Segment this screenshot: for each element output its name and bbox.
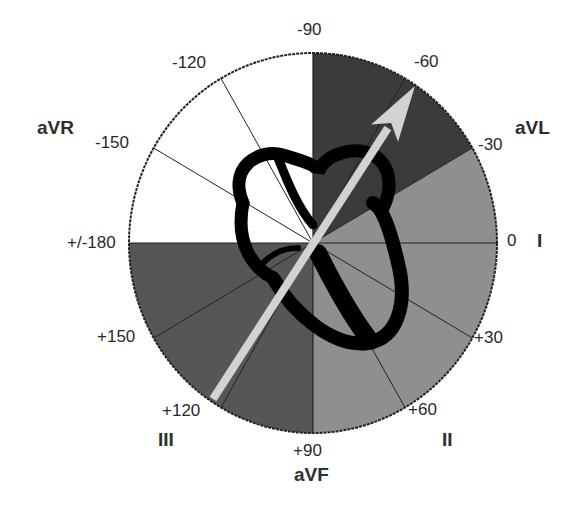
degree-label: +150 <box>97 328 135 345</box>
degree-label: -90 <box>297 21 322 38</box>
sector-extreme-axis-deviation <box>129 53 313 243</box>
degree-label: 0 <box>507 232 516 249</box>
lead-label-iii: III <box>158 430 174 449</box>
lead-label-i: I <box>537 231 542 250</box>
degree-label: -60 <box>414 53 439 70</box>
hexaxial-diagram: -90-60-300+30+60+90+120+150+/-180-150-12… <box>0 0 581 513</box>
degree-label: +/-180 <box>67 234 116 251</box>
lead-label-avf: aVF <box>294 465 329 484</box>
degree-label: +60 <box>408 401 437 418</box>
degree-label: -30 <box>478 136 503 153</box>
lead-label-avl: aVL <box>515 118 550 137</box>
sector-right-axis-deviation <box>129 243 313 433</box>
degree-label: -150 <box>95 134 129 151</box>
degree-label: +30 <box>474 329 503 346</box>
lead-label-avr: aVR <box>37 118 74 137</box>
degree-label: -120 <box>172 54 206 71</box>
degree-label: +120 <box>162 402 200 419</box>
degree-label: +90 <box>293 442 322 459</box>
lead-label-ii: II <box>442 430 453 449</box>
hexaxial-wheel <box>0 0 581 513</box>
